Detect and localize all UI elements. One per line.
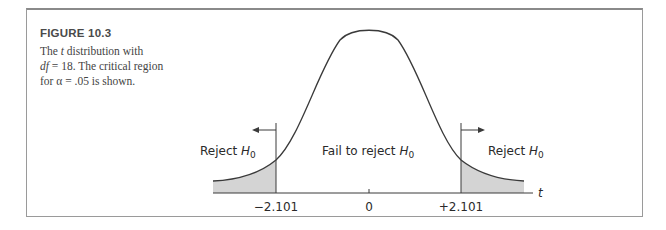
axis-label-t: t <box>538 186 544 200</box>
tick-label-right: +2.101 <box>439 200 483 214</box>
reject-right-label: Reject H0 <box>488 144 544 160</box>
reject-left-label: Reject H0 <box>200 144 256 160</box>
right-arrowhead-icon <box>478 127 485 133</box>
fail-to-reject-label: Fail to reject H0 <box>322 144 414 160</box>
tick-label-center: 0 <box>365 200 373 214</box>
density-curve <box>213 30 524 181</box>
t-distribution-chart: Reject H0 Fail to reject H0 Reject H0 −2… <box>0 0 666 230</box>
left-arrowhead-icon <box>252 127 259 133</box>
tick-label-left: −2.101 <box>254 200 298 214</box>
